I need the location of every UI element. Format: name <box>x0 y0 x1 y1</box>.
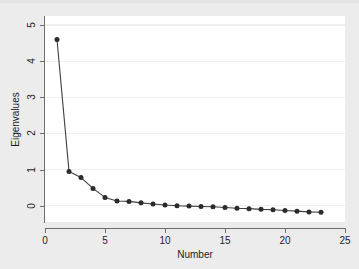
data-point-marker <box>271 207 276 212</box>
data-point-marker <box>103 195 108 200</box>
x-tick-mark <box>45 229 46 233</box>
y-tick-mark <box>40 25 44 26</box>
x-tick-label: 0 <box>33 235 57 247</box>
x-tick-label: 15 <box>213 235 237 247</box>
y-tick-label: 5 <box>26 19 38 31</box>
x-axis-line <box>45 228 346 229</box>
x-tick-mark <box>225 229 226 233</box>
y-tick-mark <box>40 133 44 134</box>
data-point-marker <box>235 206 240 211</box>
y-axis-title: Eigenvalues <box>8 16 22 222</box>
y-axis-line <box>44 16 45 223</box>
y-tick-label: 3 <box>26 91 38 103</box>
x-tick-label: 10 <box>153 235 177 247</box>
data-point-marker <box>187 204 192 209</box>
data-point-marker <box>175 203 180 208</box>
data-point-marker <box>79 175 84 180</box>
data-point-marker <box>151 201 156 206</box>
y-tick-mark <box>40 97 44 98</box>
data-point-marker <box>55 37 60 42</box>
x-tick-label: 25 <box>333 235 357 247</box>
data-point-marker <box>163 203 168 208</box>
x-tick-label: 20 <box>273 235 297 247</box>
data-point-marker <box>223 205 228 210</box>
data-point-marker <box>67 169 72 174</box>
scree-plot-figure: 012345 0510152025 Eigenvalues Number <box>0 0 359 269</box>
data-point-marker <box>199 204 204 209</box>
figure-top-edge <box>0 0 359 3</box>
x-axis-title-label: Number <box>45 249 345 260</box>
data-point-marker <box>211 204 216 209</box>
data-point-marker <box>127 199 132 204</box>
y-tick-mark <box>40 61 44 62</box>
plot-area <box>45 16 345 222</box>
data-point-marker <box>247 206 252 211</box>
x-tick-mark <box>285 229 286 233</box>
y-tick-label: 4 <box>26 55 38 67</box>
x-tick-mark <box>105 229 106 233</box>
y-tick-label: 0 <box>26 200 38 212</box>
data-point-marker <box>283 208 288 213</box>
y-tick-label: 2 <box>26 127 38 139</box>
data-point-marker <box>259 207 264 212</box>
y-tick-label: 1 <box>26 164 38 176</box>
data-point-marker <box>307 209 312 214</box>
data-point-marker <box>115 199 120 204</box>
y-axis-title-label: Eigenvalues <box>10 92 21 146</box>
data-point-marker <box>139 200 144 205</box>
x-tick-mark <box>345 229 346 233</box>
x-tick-mark <box>165 229 166 233</box>
eigenvalue-series <box>45 16 345 222</box>
x-tick-label: 5 <box>93 235 117 247</box>
data-point-marker <box>295 209 300 214</box>
series-line <box>57 39 321 212</box>
data-point-marker <box>91 186 96 191</box>
y-tick-mark <box>40 206 44 207</box>
y-tick-mark <box>40 170 44 171</box>
data-point-marker <box>319 210 324 215</box>
